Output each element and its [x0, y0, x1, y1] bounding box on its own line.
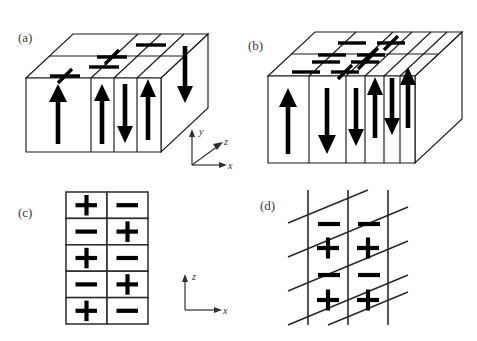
- panel-a: (a): [0, 0, 240, 180]
- panel-a-drawing: y z x: [0, 0, 240, 180]
- panel-c-drawing: z x: [0, 180, 240, 341]
- panel-a-label: (a): [18, 30, 32, 46]
- panel-c-label: (c): [18, 205, 32, 221]
- panel-c: (c): [0, 180, 240, 341]
- panel-c-axis-triad: z x: [182, 271, 228, 316]
- grid-d-symbol-r4c2-plus: [357, 290, 379, 311]
- block-a-front-face: [26, 78, 161, 152]
- panel-d-label: (d): [260, 198, 275, 214]
- panel-a-axis-triad: y z x: [189, 126, 233, 171]
- grid-d-symbol-r4c1-plus: [317, 290, 339, 311]
- panel-d-drawing: [240, 180, 477, 341]
- axis-label-y: y: [198, 126, 204, 137]
- figure-root: (a): [0, 0, 477, 341]
- axis-label-x-c: x: [222, 305, 228, 316]
- panel-b-drawing: [230, 0, 477, 180]
- axis-label-z-c: z: [191, 271, 196, 282]
- axis-label-z: z: [223, 136, 228, 147]
- panel-b: (b): [230, 0, 477, 180]
- panel-d: (d): [240, 180, 477, 341]
- grid-d-slant-1: [288, 190, 368, 223]
- grid-d-symbol-r2c2-plus: [357, 238, 379, 259]
- grid-d-symbol-r2c1-plus: [317, 238, 339, 259]
- panel-b-label: (b): [248, 38, 263, 54]
